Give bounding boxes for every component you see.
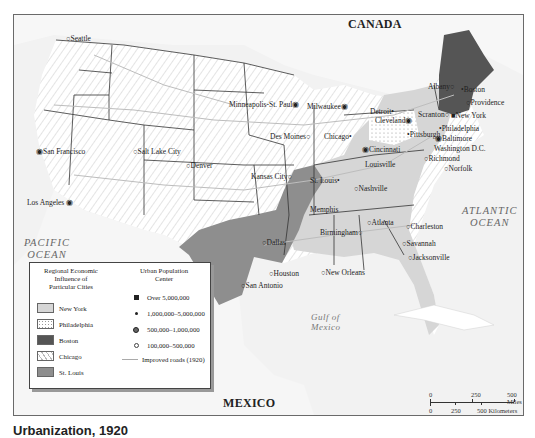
label-gulf-of-mexico: Gulf of Mexico (311, 312, 340, 333)
road-line-icon (122, 359, 138, 360)
city-charleston: ○Charleston (406, 223, 443, 231)
city-boston: •Boston (461, 86, 485, 94)
city-new-york: ■New York (451, 112, 486, 120)
legend-regional-title: Regional Economic Influence of Particula… (32, 267, 110, 291)
city-new-orleans: ○New Orleans (321, 269, 365, 277)
city-san-francisco: ◉San Francisco (36, 148, 85, 156)
city-cleveland: Cleveland◉ (375, 117, 412, 125)
swatch-philadelphia (37, 319, 54, 329)
city-richmond: ○Richmond (424, 155, 460, 163)
city-los-angeles: Los Angeles ◉ (27, 199, 73, 207)
city-milwaukee: Milwaukee◉ (307, 103, 348, 111)
city-san-antonio: ○San Antonio (241, 282, 283, 290)
legend-improved-roads: Improved roads (1920) (122, 356, 205, 363)
small-dot-icon (131, 312, 141, 315)
filled-circle-icon (131, 327, 141, 333)
map-caption: Urbanization, 1920 (13, 423, 128, 438)
city-scranton: Scranton○ (418, 111, 449, 119)
city-cincinnati: ◉Cincinnati (362, 146, 400, 154)
city-atlanta: ○Atlanta (367, 219, 394, 227)
city-des-moines: Des Moines○ (270, 133, 311, 141)
city-salt-lake-city: ○Salt Lake City (133, 148, 181, 156)
city-jacksonville: ○Jacksonville (408, 254, 450, 262)
label-atlantic-ocean: ATLANTIC OCEAN (462, 205, 517, 228)
city-chicago: Chicago• (324, 133, 352, 141)
legend-population-title: Urban Population Center (120, 267, 208, 283)
city-baltimore: ◉Baltimore (435, 135, 472, 143)
city-albany: Albany○ (428, 83, 455, 91)
city-savannah: ○Savannah (402, 240, 436, 248)
city-memphis: Memphis (310, 206, 338, 214)
city-st-louis: St. Louis• (310, 177, 340, 185)
swatch-st-louis (37, 367, 54, 377)
label-canada: CANADA (348, 17, 402, 32)
swatch-new-york (37, 303, 54, 313)
city-norfolk: ○Norfolk (444, 165, 472, 173)
label-mexico: MEXICO (223, 396, 275, 411)
scale-line (430, 402, 514, 403)
city-louisville: Louisville (365, 161, 395, 169)
city-seattle: ○Seattle (66, 35, 91, 43)
legend-region-boston: Boston (37, 335, 78, 345)
legend-pop-100k-500k: 100,000–500,000 (131, 342, 195, 349)
legend-pop-500k-1m: 500,000–1,000,000 (131, 326, 200, 333)
legend-region-new-york: New York (37, 303, 87, 313)
scale-bar: 0 250 500 Miles 0 250 500 Kilometers (429, 391, 524, 416)
legend-pop-1m-5m: 1,000,000–5,000,000 (131, 310, 205, 317)
city-detroit: Detroit• (370, 108, 394, 116)
filled-square-icon (131, 295, 141, 300)
city-washington-dc: Washington D.C. (434, 145, 486, 153)
city-providence: ○Providence (466, 99, 504, 107)
label-pacific-ocean: PACIFIC OCEAN (24, 237, 70, 260)
city-nashville: ○Nashville (354, 185, 387, 193)
swatch-chicago (37, 351, 54, 361)
city-philadelphia: •Philadelphia (439, 125, 479, 133)
legend-pop-over-5m: Over 5,000,000 (131, 294, 189, 301)
legend: Regional Economic Influence of Particula… (29, 262, 211, 389)
city-kansas-city: Kansas City○ (251, 173, 292, 181)
legend-region-st-louis: St. Louis (37, 367, 84, 377)
city-minneapolis-st-paul: Minneapolis-St. Paul◉ (229, 101, 299, 109)
legend-region-chicago: Chicago (37, 351, 82, 361)
swatch-boston (37, 335, 54, 345)
city-houston: ○Houston (269, 270, 299, 278)
city-denver: ○Denver (186, 162, 213, 170)
open-circle-icon (131, 343, 141, 348)
legend-region-philadelphia: Philadelphia (37, 319, 93, 329)
city-birmingham: Birmingham○ (320, 229, 362, 237)
city-dallas: ○Dallas (262, 239, 286, 247)
